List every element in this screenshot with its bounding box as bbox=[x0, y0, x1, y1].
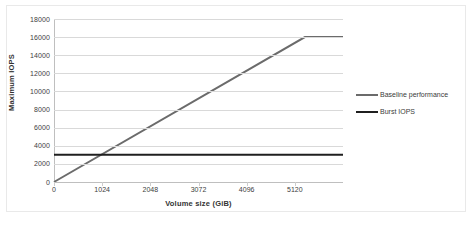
x-tick-label: 0 bbox=[52, 186, 56, 194]
legend-entry[interactable]: Burst IOPS bbox=[356, 103, 468, 120]
legend-swatch-icon bbox=[356, 94, 378, 96]
x-axis-title: Volume size (GiB) bbox=[54, 199, 343, 208]
gridline bbox=[54, 110, 343, 111]
x-tick-label: 5120 bbox=[287, 186, 303, 194]
x-tick-mark bbox=[150, 182, 151, 186]
y-tick-label: 2000 bbox=[4, 160, 50, 167]
x-tick-mark bbox=[54, 182, 55, 186]
x-axis-tick-labels: 010242048307240965120 bbox=[54, 186, 343, 198]
x-tick-label: 4096 bbox=[239, 186, 255, 194]
gridline bbox=[54, 55, 343, 56]
x-tick-mark bbox=[102, 182, 103, 186]
x-tick-mark bbox=[247, 182, 248, 186]
gridline bbox=[54, 128, 343, 129]
legend-entry[interactable]: Baseline performance bbox=[356, 86, 468, 103]
legend-label: Burst IOPS bbox=[380, 108, 415, 116]
gridline bbox=[54, 37, 343, 38]
y-tick-label: 18000 bbox=[4, 16, 50, 23]
gridline bbox=[54, 19, 343, 20]
x-tick-mark bbox=[295, 182, 296, 186]
series-layer bbox=[54, 19, 343, 182]
gridline bbox=[54, 73, 343, 74]
gridline bbox=[54, 164, 343, 165]
chart-figure: 0200040006000800010000120001400016000180… bbox=[0, 0, 474, 225]
x-tick-mark bbox=[199, 182, 200, 186]
x-tick-label: 3072 bbox=[191, 186, 207, 194]
y-tick-label: 0 bbox=[4, 179, 50, 186]
chart-legend: Baseline performanceBurst IOPS bbox=[356, 86, 468, 120]
legend-swatch-icon bbox=[356, 111, 378, 113]
x-tick-label: 2048 bbox=[143, 186, 159, 194]
gridline bbox=[54, 91, 343, 92]
legend-label: Baseline performance bbox=[380, 91, 448, 99]
x-tick-label: 1024 bbox=[94, 186, 110, 194]
y-tick-label: 4000 bbox=[4, 142, 50, 149]
y-axis-title: Maximum IOPS bbox=[7, 28, 16, 138]
gridline bbox=[54, 146, 343, 147]
plot-area bbox=[54, 19, 343, 182]
